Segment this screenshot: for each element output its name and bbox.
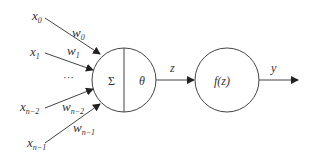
input-label-xn-1: xn−1 <box>26 135 46 152</box>
sigma-label: Σ <box>108 74 115 88</box>
input-label-x0: x0 <box>31 8 42 25</box>
y-label: y <box>270 61 277 75</box>
weight-label-wn-1: wn−1 <box>73 120 95 137</box>
weight-label-wn-2: wn−2 <box>62 99 84 116</box>
theta-label: θ <box>139 74 145 88</box>
z-label: z <box>169 61 175 75</box>
weight-label-w1: w1 <box>67 43 80 60</box>
perceptron-diagram: x0 w0 x1 w1 ··· xn−2 wn−2 xn−1 wn−1 Σ θ … <box>0 0 314 161</box>
summation-node <box>92 48 156 112</box>
weight-label-w0: w0 <box>72 25 85 42</box>
input-label-x1: x1 <box>29 44 40 61</box>
ellipsis: ··· <box>63 71 74 83</box>
input-label-xn-2: xn−2 <box>19 99 39 116</box>
activation-label: f(z) <box>214 74 230 88</box>
